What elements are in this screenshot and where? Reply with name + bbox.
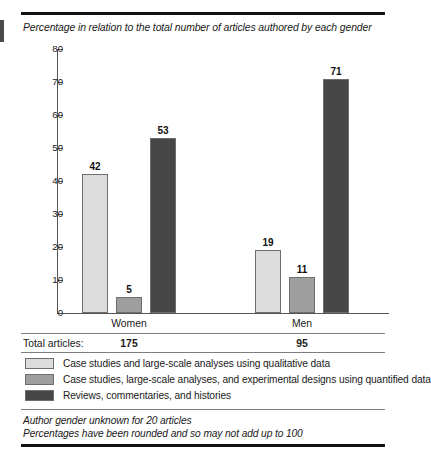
y-axis-tick-label: 80 (39, 44, 63, 54)
bar-women-series-1 (82, 174, 108, 313)
totals-label: Total articles: (23, 337, 84, 350)
bar-value-label: 71 (316, 66, 356, 77)
x-axis-group-label-women: Women (62, 318, 196, 330)
figure-top-rule (21, 12, 385, 15)
total-articles-men: 95 (272, 337, 332, 350)
total-articles-women: 175 (99, 337, 159, 350)
y-axis-tick-row: 70 (27, 77, 63, 87)
y-axis-tick-label: 40 (39, 176, 63, 186)
y-axis-tick-row: 40 (27, 176, 63, 186)
totals-bottom-rule (21, 352, 385, 353)
y-axis-tick-label: 70 (39, 77, 63, 87)
footnote-gender-unknown: Author gender unknown for 20 articles (23, 414, 191, 427)
bar-men-series-3 (323, 79, 349, 313)
y-axis-tick-row: 60 (27, 110, 63, 120)
y-axis-tick-label: 20 (39, 242, 63, 252)
y-axis-tick-row: 20 (27, 242, 63, 252)
totals-top-rule (21, 333, 385, 334)
y-axis-tick-label: 60 (39, 110, 63, 120)
bar-value-label: 19 (248, 237, 288, 248)
y-axis-tick-label: 30 (39, 209, 63, 219)
bar-value-label: 5 (109, 284, 149, 295)
plot-area: 0102030405060708042553Women191171Men (0, 44, 404, 330)
page-edge-artifact (0, 20, 4, 42)
y-axis-tick-label: 0 (39, 308, 63, 318)
legend-swatch-icon (25, 358, 54, 369)
bar-men-series-1 (255, 250, 281, 313)
legend-item-3: Reviews, commentaries, and histories (25, 389, 385, 402)
y-axis-tick-row: 50 (27, 143, 63, 153)
y-axis-tick-row: 10 (27, 275, 63, 285)
y-axis-tick-row: 0 (27, 308, 63, 318)
legend-bottom-rule (21, 409, 385, 410)
y-axis-tick-row: 30 (27, 209, 63, 219)
x-axis-group-label-men: Men (235, 318, 369, 330)
bar-value-label: 42 (75, 161, 115, 172)
legend-swatch-icon (25, 374, 54, 385)
legend-item-2: Case studies, large-scale analyses, and … (25, 373, 385, 386)
y-axis-tick-label: 50 (39, 143, 63, 153)
legend-label: Case studies, large-scale analyses, and … (63, 373, 431, 386)
bar-value-label: 11 (282, 264, 322, 275)
legend-label: Reviews, commentaries, and histories (63, 389, 231, 402)
bar-value-label: 53 (143, 125, 183, 136)
bar-women-series-2 (116, 297, 142, 314)
y-axis-tick-label: 10 (39, 275, 63, 285)
footnote-rounding: Percentages have been rounded and so may… (23, 427, 303, 440)
figure-bottom-rule (21, 444, 385, 447)
x-axis-line (57, 313, 389, 314)
legend-swatch-icon (25, 390, 54, 401)
legend-item-1: Case studies and large-scale analyses us… (25, 357, 385, 370)
legend-label: Case studies and large-scale analyses us… (63, 357, 330, 370)
y-axis-tick-row: 80 (27, 44, 63, 54)
bar-men-series-2 (289, 277, 315, 313)
figure-caption: Percentage in relation to the total numb… (23, 21, 393, 34)
bar-women-series-3 (150, 138, 176, 313)
